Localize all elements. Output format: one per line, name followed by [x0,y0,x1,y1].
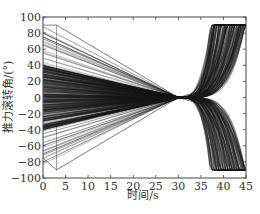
x-tick-label: 5 [62,180,69,193]
y-tick-label: 80 [27,27,41,40]
x-tick-label: 45 [239,180,253,193]
y-tick-label: 40 [27,59,41,72]
trajectory-lines [43,25,246,170]
x-tick-label: 35 [194,180,208,193]
y-tick-label: 60 [27,43,41,56]
y-tick-label: 0 [34,92,41,105]
x-tick-label: 15 [104,180,118,193]
trajectory-chart: 051015202530354045 100806040200−20−40−60… [0,0,260,214]
y-axis-label: 推力滚转角/(°) [1,61,15,134]
y-tick-label: 20 [27,75,41,88]
y-tick-label: −100 [11,172,41,185]
x-axis-label: 时间/s [127,189,159,202]
x-tick-label: 40 [216,180,230,193]
x-tick-label: 30 [171,180,185,193]
x-tick-label: 10 [81,180,95,193]
y-tick-label: −80 [18,156,41,169]
y-tick-label: 100 [20,11,41,24]
y-tick-label: −60 [18,140,41,153]
y-tick-label: −20 [18,108,41,121]
y-tick-label: −40 [18,124,41,137]
